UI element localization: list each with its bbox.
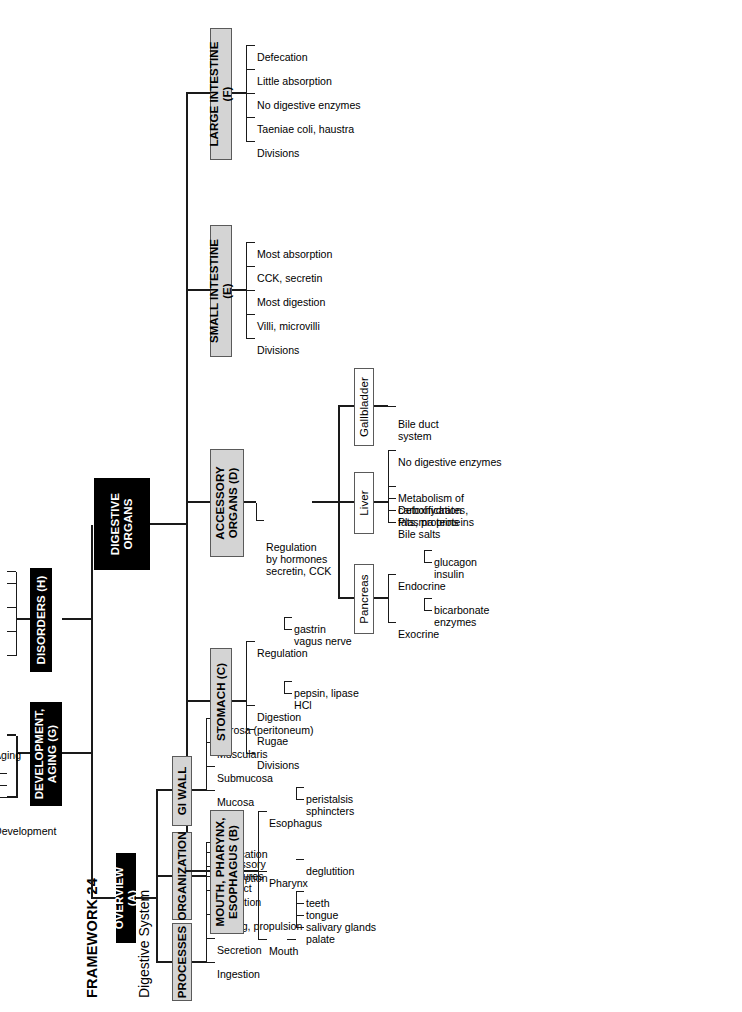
leaf-mouth-palate: palate xyxy=(306,934,335,946)
diagram-canvas: FRAMEWORK 24 Digestive System DIGESTIVE … xyxy=(0,0,742,1012)
liver-stem xyxy=(374,501,388,503)
tick xyxy=(7,631,16,632)
tick xyxy=(7,571,16,572)
leaf-li-4: Defecation xyxy=(257,52,308,64)
mouth-bus xyxy=(258,812,259,940)
tick xyxy=(388,522,396,523)
connector-small-intestine xyxy=(186,289,210,291)
tick xyxy=(296,891,304,892)
leaf-si-4: Most absorption xyxy=(257,249,332,261)
overview-stem xyxy=(136,897,156,899)
node-development-aging-g: DEVELOPMENT, AGING (G) xyxy=(30,702,62,806)
tick xyxy=(206,962,215,963)
node-processes: PROCESSES xyxy=(172,923,192,1001)
tick xyxy=(246,705,255,706)
connector-gi-wall xyxy=(156,789,172,791)
leaf-pharynx: Pharynx xyxy=(269,878,308,890)
node-gallbladder: Gallbladder xyxy=(354,368,374,446)
tick xyxy=(7,734,16,736)
leaf-liver-bile-salts: Bile salts xyxy=(398,529,440,541)
node-small-intestine-e: SMALL INTESTINE (E) xyxy=(210,225,232,357)
leaf-si-0: Divisions xyxy=(257,345,299,357)
tick xyxy=(246,753,255,754)
large-intestine-bus xyxy=(246,46,247,142)
top-bus xyxy=(91,525,93,899)
liver-bus xyxy=(388,451,389,523)
leaf-li-0: Divisions xyxy=(257,148,299,160)
tick xyxy=(246,729,255,730)
tick xyxy=(284,617,292,618)
tick xyxy=(284,681,292,682)
leaf-gallbladder-bile-duct: Bile duct system xyxy=(398,419,439,443)
connector-processes xyxy=(156,961,172,963)
leaf-liver-metabolism: Metabolism of carbohydrates, fats, prote… xyxy=(398,493,468,529)
tick xyxy=(287,939,296,940)
organization-stem xyxy=(192,875,206,877)
tick xyxy=(246,338,255,339)
node-pancreas: Pancreas xyxy=(354,564,374,634)
tick xyxy=(7,607,16,608)
connector-mouth xyxy=(186,870,210,872)
tick xyxy=(246,93,255,94)
mouth-stem xyxy=(244,870,258,872)
processes-stem xyxy=(192,961,206,963)
leaf-exocrine-enzymes: enzymes xyxy=(434,617,476,629)
tick xyxy=(258,811,267,812)
leaf-gi-wall-0: Mucosa xyxy=(217,797,254,809)
connector-organization xyxy=(156,875,172,877)
leaf-development-label: Development xyxy=(0,826,56,838)
leaf-li-3: Little absorption xyxy=(257,76,332,88)
leaf-si-3: CCK, secretin xyxy=(257,273,322,285)
pancreas-stem xyxy=(374,597,388,599)
tick xyxy=(258,871,267,872)
leaf-aging-label: Aging xyxy=(0,750,21,762)
tick xyxy=(246,242,255,243)
leaf-stomach-hcl: HCl xyxy=(294,700,312,712)
leaf-stomach-regulation: Regulation xyxy=(257,648,308,660)
connector-gallbladder xyxy=(338,405,354,407)
tick xyxy=(388,486,396,487)
tick xyxy=(246,314,255,315)
leaf-gi-wall-1: Submucosa xyxy=(217,773,273,785)
node-disorders-h: DISORDERS (H) xyxy=(30,568,52,672)
leaf-exocrine-bicarbonate: bicarbonate xyxy=(434,605,489,617)
tick xyxy=(388,510,396,511)
leaf-si-1: Villi, microvilli xyxy=(257,321,320,333)
leaf-stomach-rugae: Rugae xyxy=(257,736,288,748)
leaf-mouth: Mouth xyxy=(269,946,298,958)
node-overview-a: OVERVIEW (A) xyxy=(116,853,136,943)
gi-wall-stem xyxy=(192,789,206,791)
leaf-mouth-salivary-glands: salivary glands xyxy=(306,922,376,934)
tick xyxy=(246,45,255,46)
tick xyxy=(296,927,304,928)
tick xyxy=(424,610,432,611)
leaf-pharynx-deglutition: deglutition xyxy=(306,866,354,878)
tick xyxy=(388,498,396,499)
leaf-processes-0: Ingestion xyxy=(217,969,260,981)
accessory-organ-stem xyxy=(312,501,338,503)
accessory-stem xyxy=(244,501,256,503)
connector-large-intestine xyxy=(186,92,210,94)
leaf-esophagus-sphincters: sphincters xyxy=(306,806,354,818)
tick xyxy=(7,583,16,584)
mouth-sub-bus xyxy=(296,892,297,928)
leaf-esophagus-peristalsis: peristalsis xyxy=(306,794,353,806)
connector-accessory xyxy=(186,501,210,503)
overview-bus xyxy=(156,791,158,963)
leaf-liver-no-digestive-enzymes: No digestive enzymes xyxy=(398,457,502,469)
tick xyxy=(206,938,215,939)
tick xyxy=(246,266,255,267)
leaf-si-2: Most digestion xyxy=(257,297,325,309)
tick xyxy=(256,520,264,521)
node-mouth-pharynx-esophagus-b: MOUTH, PHARYNX, ESOPHAGUS (B) xyxy=(210,810,244,934)
tick xyxy=(284,693,292,694)
leaf-accessory-note: Regulation by hormones secretin, CCK xyxy=(266,542,331,578)
pancreas-bus xyxy=(388,575,389,623)
accessory-organ-bus xyxy=(338,407,340,599)
framework-diagram-page: FRAMEWORK 24 Digestive System DIGESTIVE … xyxy=(0,0,742,1012)
leaf-mouth-tongue: tongue xyxy=(306,910,338,922)
node-gi-wall: GI WALL xyxy=(172,756,192,826)
leaf-endocrine-insulin: insulin xyxy=(434,569,464,581)
leaf-stomach-divisions: Divisions xyxy=(257,760,299,772)
accessory-note-bus xyxy=(256,503,257,521)
